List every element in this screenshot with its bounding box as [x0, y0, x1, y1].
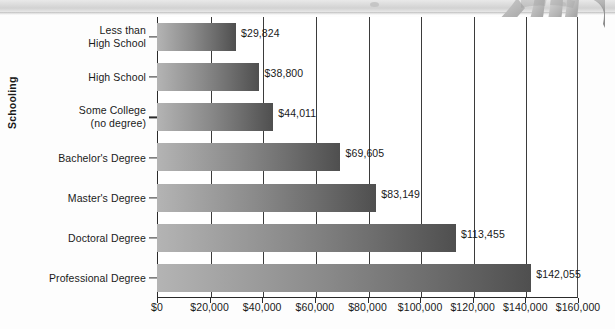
y-axis-tick-5	[149, 237, 157, 238]
page-edge-shadow	[0, 12, 615, 15]
bar-row[interactable]: $69,605	[157, 137, 578, 177]
y-axis-label-2-line1: Some College	[79, 105, 146, 117]
bar-professional-degree[interactable]	[157, 264, 531, 292]
bar-masters-degree[interactable]	[157, 184, 376, 212]
y-axis-label-3: Bachelor's Degree	[0, 151, 146, 164]
x-axis-label-0: $0	[151, 301, 163, 313]
bar-row[interactable]: $142,055	[157, 258, 578, 298]
x-axis-label-40000: $40,000	[243, 301, 282, 313]
y-axis-label-2-line2: (no degree)	[91, 117, 146, 129]
y-axis-label-5: Doctoral Degree	[0, 232, 146, 245]
chart-page: Schooling Less thanHigh School High Scho…	[0, 0, 615, 329]
bar-some-college[interactable]	[157, 103, 273, 131]
y-axis-tick-2	[149, 117, 157, 118]
y-axis-label-2: Some College(no degree)	[0, 105, 146, 130]
y-axis-tick-4	[149, 197, 157, 198]
x-axis-label-60000: $60,000	[296, 301, 335, 313]
x-axis-label-160000: $160,000	[556, 301, 601, 313]
bar-value-label-6: $142,055	[536, 268, 581, 280]
bar-doctoral-degree[interactable]	[157, 224, 456, 252]
y-axis-tick-0	[149, 37, 157, 38]
x-axis-label-120000: $120,000	[450, 301, 495, 313]
bar-row[interactable]: $38,800	[157, 57, 578, 97]
bar-value-label-1: $38,800	[265, 67, 304, 79]
y-axis-label-3-line1: Bachelor's Degree	[58, 151, 146, 163]
bar-value-label-2: $44,011	[278, 107, 316, 119]
bar-row[interactable]: $113,455	[157, 218, 578, 258]
bar-high-school[interactable]	[157, 63, 259, 91]
x-axis-labels: $0 $20,000 $40,000 $60,000 $80,000 $100,…	[157, 301, 578, 319]
x-axis-label-20000: $20,000	[190, 301, 229, 313]
y-axis-label-5-line1: Doctoral Degree	[68, 232, 146, 244]
y-axis-label-1: High School	[0, 71, 146, 84]
bar-row[interactable]: $83,149	[157, 178, 578, 218]
y-axis-label-0-line1: Less than	[100, 25, 146, 37]
y-axis-label-1-line1: High School	[88, 71, 146, 83]
bar-value-label-4: $83,149	[381, 188, 420, 200]
page-edge-speck	[560, 2, 566, 7]
y-axis-label-4-line1: Master's Degree	[68, 191, 146, 203]
bar-value-label-3: $69,605	[346, 147, 385, 159]
bar-value-label-5: $113,455	[461, 228, 505, 240]
y-axis-label-6: Professional Degree	[0, 272, 146, 285]
y-axis-label-0: Less thanHigh School	[0, 25, 146, 50]
y-axis-labels: Less thanHigh School High School Some Co…	[0, 17, 157, 298]
y-axis-tick-3	[149, 157, 157, 158]
y-axis-label-0-line2: High School	[88, 37, 146, 49]
bar-row[interactable]: $44,011	[157, 97, 578, 137]
page-edge-speck	[370, 2, 379, 7]
bar-value-label-0: $29,824	[241, 27, 280, 39]
x-axis-label-100000: $100,000	[398, 301, 443, 313]
x-axis-label-80000: $80,000	[348, 301, 387, 313]
bar-bachelors-degree[interactable]	[157, 143, 340, 171]
bar-less-than-high-school[interactable]	[157, 23, 236, 51]
y-axis-tick-1	[149, 77, 157, 78]
y-axis-label-6-line1: Professional Degree	[49, 272, 146, 284]
y-axis-tick-6	[149, 277, 157, 278]
x-axis-label-140000: $140,000	[503, 301, 548, 313]
y-axis-label-4: Master's Degree	[0, 191, 146, 204]
bar-series: $29,824 $38,800 $44,011 $69,605 $83,149 …	[157, 17, 578, 298]
bar-row[interactable]: $29,824	[157, 17, 578, 57]
